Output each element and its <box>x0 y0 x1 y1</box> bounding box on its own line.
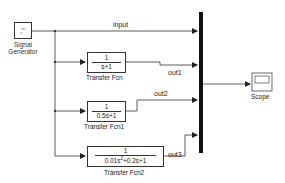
tf1-numerator: 1 <box>105 104 109 111</box>
tf2-denominator: 0.01s2+0.2s+1 <box>105 157 147 165</box>
tf1-denominator: 0.5s+1 <box>97 113 117 120</box>
transfer-fcn2-block[interactable]: 1 0.01s2+0.2s+1 <box>87 146 164 167</box>
signal-label-out3: out3 <box>168 151 182 158</box>
transfer-fcn-block[interactable]: 1 s+1 <box>87 52 126 73</box>
transfer-fcn2-label: Transfer Fcn2 <box>104 170 144 177</box>
mux-block <box>199 12 203 153</box>
signal-label-input: input <box>113 21 128 28</box>
signal-label-out2: out2 <box>154 90 168 97</box>
signal-label-out1: out1 <box>168 69 182 76</box>
transfer-fcn1-label: Transfer Fcn1 <box>84 124 124 131</box>
tf2-fraction-bar <box>95 155 157 156</box>
tf2-numerator: 1 <box>124 148 128 155</box>
signal-generator-block[interactable]: ▫▫▫▫ ▫▫ <box>14 22 32 39</box>
signal-line-out2 <box>126 100 197 111</box>
transfer-fcn-label: Transfer Fcn <box>86 75 123 82</box>
tf2-denominator-part-b: +0.2s+1 <box>123 158 147 165</box>
signal-generator-label-line2: Generator <box>5 48 41 55</box>
signal-generator-label: Signal Generator <box>5 41 41 56</box>
signal-generator-icon-dots: ▫▫ <box>20 31 22 35</box>
tf-numerator: 1 <box>105 55 109 62</box>
tf2-denominator-part-a: 0.01s <box>105 158 121 165</box>
tf-denominator: s+1 <box>101 64 112 71</box>
transfer-fcn1-block[interactable]: 1 0.5s+1 <box>87 101 126 122</box>
signal-line-out1 <box>126 62 197 65</box>
signal-generator-label-line1: Signal <box>5 41 41 48</box>
scope-label: Scope <box>251 94 269 101</box>
scope-block[interactable] <box>252 73 272 91</box>
